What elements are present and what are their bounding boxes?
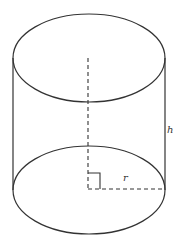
right-angle-marker bbox=[88, 173, 100, 189]
cylinder-figure bbox=[0, 0, 184, 247]
height-label: h bbox=[167, 125, 173, 135]
radius-label: r bbox=[123, 173, 128, 183]
top-base-ellipse bbox=[13, 14, 165, 102]
cylinder-diagram: h r bbox=[0, 0, 184, 247]
bottom-base-ellipse bbox=[13, 146, 165, 234]
